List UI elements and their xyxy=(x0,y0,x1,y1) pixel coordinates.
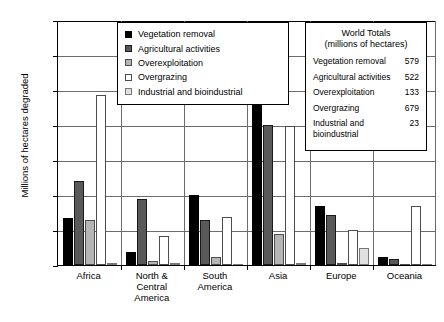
legend-label: Agricultural activities xyxy=(138,44,220,54)
bar xyxy=(96,95,106,265)
bar xyxy=(296,263,306,265)
bar xyxy=(74,181,84,265)
x-tick-label: North & Central America xyxy=(120,270,183,303)
world-total-name: Agricultural activities xyxy=(313,72,405,83)
legend-swatch-icon xyxy=(125,45,132,52)
bar xyxy=(378,257,388,265)
world-total-row: Overexploitation133 xyxy=(313,87,419,98)
bar xyxy=(107,263,117,265)
legend-item: Overexploitation xyxy=(125,56,282,70)
bar xyxy=(189,195,199,265)
bar xyxy=(337,263,347,265)
x-tick-label: Oceania xyxy=(373,270,436,303)
world-totals-box: World Totals (millions of hectares) Vege… xyxy=(305,22,427,151)
bar xyxy=(222,217,232,265)
bar xyxy=(389,259,399,265)
bar xyxy=(400,264,410,265)
world-total-value: 679 xyxy=(405,103,419,114)
bar xyxy=(200,220,210,265)
legend-item: Overgrazing xyxy=(125,70,282,84)
world-totals-rows: Vegetation removal579Agricultural activi… xyxy=(313,56,419,139)
world-totals-title-line2: (millions of hectares) xyxy=(313,39,419,50)
y-axis-title: Millions of hectares degraded xyxy=(19,26,30,246)
legend-swatch-icon xyxy=(125,31,132,38)
x-tick-label: Asia xyxy=(247,270,310,303)
x-tick-label: Africa xyxy=(57,270,120,303)
chart-legend: Vegetation removalAgricultural activitie… xyxy=(117,22,289,105)
bar xyxy=(159,236,169,265)
y-tick-mark xyxy=(53,266,58,267)
bar xyxy=(85,220,95,266)
legend-item: Agricultural activities xyxy=(125,41,282,55)
world-total-value: 133 xyxy=(405,87,419,98)
world-total-row: Agricultural activities522 xyxy=(313,72,419,83)
legend-label: Overexploitation xyxy=(138,58,203,68)
bar xyxy=(126,252,136,265)
x-tick-label: South America xyxy=(183,270,246,303)
world-total-name: Overexploitation xyxy=(313,87,405,98)
bar xyxy=(63,218,73,265)
bar xyxy=(263,125,273,265)
world-total-name: Industrial and bioindustrial xyxy=(313,118,410,139)
legend-item: Industrial and bioindustrial xyxy=(125,85,282,99)
bar xyxy=(233,264,243,265)
bar-group xyxy=(58,21,121,265)
world-total-value: 23 xyxy=(410,118,419,129)
bar xyxy=(285,126,295,265)
world-total-row: Overgrazing679 xyxy=(313,103,419,114)
bar xyxy=(348,230,358,265)
legend-swatch-icon xyxy=(125,74,132,81)
bar xyxy=(422,264,432,265)
legend-swatch-icon xyxy=(125,59,132,66)
world-totals-title-line1: World Totals xyxy=(313,28,419,39)
legend-label: Overgrazing xyxy=(138,72,187,82)
world-totals-title: World Totals (millions of hectares) xyxy=(313,28,419,50)
legend-label: Vegetation removal xyxy=(138,29,215,39)
world-total-row: Industrial and bioindustrial23 xyxy=(313,118,419,139)
world-total-row: Vegetation removal579 xyxy=(313,56,419,67)
x-axis-labels: AfricaNorth & Central AmericaSouth Ameri… xyxy=(57,270,436,303)
degraded-land-bar-chart: Millions of hectares degraded 0501001502… xyxy=(0,0,444,322)
bar xyxy=(148,261,158,265)
bar xyxy=(411,206,421,265)
bar xyxy=(137,199,147,265)
bar xyxy=(211,257,221,265)
world-total-name: Vegetation removal xyxy=(313,56,405,67)
legend-label: Industrial and bioindustrial xyxy=(138,87,243,97)
bar xyxy=(315,206,325,265)
world-total-value: 522 xyxy=(405,72,419,83)
bar xyxy=(326,215,336,265)
bar xyxy=(359,248,369,266)
x-tick-label: Europe xyxy=(310,270,373,303)
world-total-value: 579 xyxy=(405,56,419,67)
bar xyxy=(274,234,284,265)
legend-item: Vegetation removal xyxy=(125,27,282,41)
world-total-name: Overgrazing xyxy=(313,103,405,114)
bar xyxy=(170,263,180,265)
legend-swatch-icon xyxy=(125,88,132,95)
